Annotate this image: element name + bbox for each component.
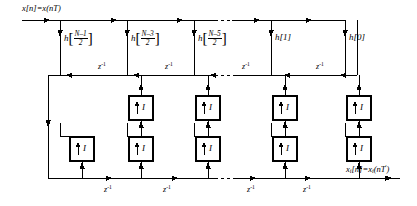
upsampler-label-u1: I bbox=[209, 103, 212, 112]
upsampler-label-l3: I bbox=[286, 144, 289, 153]
delay-label-bot-3: z-1 bbox=[303, 185, 311, 194]
upsampler-row-upper bbox=[129, 96, 371, 120]
upsampler-upper-input-arrowheads bbox=[139, 121, 362, 129]
delay-label-bot-0: z-1 bbox=[104, 185, 112, 194]
tap-1-denominator: 2 bbox=[141, 39, 155, 47]
delay-label-mid-0: z-1 bbox=[98, 62, 106, 71]
upsampler-lower-input-arrowheads bbox=[80, 162, 362, 170]
tap-label-0: h[N–12] bbox=[64, 30, 93, 47]
tap-label-2: h[N–52] bbox=[198, 30, 227, 47]
tap-label-4: h[0] bbox=[349, 33, 365, 42]
input-signal-label: x[n]=x(nT) bbox=[22, 4, 61, 13]
delay-label-mid-1: z-1 bbox=[165, 62, 173, 71]
upsampler-row-lower bbox=[70, 137, 371, 161]
upsampler-label-u3: I bbox=[360, 103, 363, 112]
figure-canvas: x[n]=x(nT) h[N–12] h[N–32] h[N–52] h[1] … bbox=[0, 0, 417, 206]
tap-0-denominator: 2 bbox=[74, 39, 88, 47]
output-signal-label: xi[n]=xi(nT') bbox=[346, 165, 389, 174]
delay-label-mid-2: z-1 bbox=[242, 62, 250, 71]
tap-label-3: h[1] bbox=[275, 33, 291, 42]
upsampler-label-u2: I bbox=[286, 103, 289, 112]
upsampler-upper-outputs bbox=[141, 75, 359, 96]
upsampler-upper-output-arrowheads bbox=[139, 83, 362, 90]
left-rail-arrowhead bbox=[46, 120, 51, 128]
delay-label-bot-1: z-1 bbox=[163, 185, 171, 194]
delay-label-mid-3: z-1 bbox=[316, 62, 324, 71]
upsampler-label-l0: I bbox=[83, 144, 86, 153]
upsampler-label-l2: I bbox=[209, 144, 212, 153]
delay-label-bot-2: z-1 bbox=[247, 185, 255, 194]
upsampler-label-l1: I bbox=[142, 144, 145, 153]
upsampler-upper-inputs bbox=[141, 120, 359, 136]
upsampler-label-u0: I bbox=[142, 103, 145, 112]
tap-label-1: h[N–32] bbox=[131, 30, 160, 47]
tap-2-denominator: 2 bbox=[208, 39, 222, 47]
upsampler-label-l4: I bbox=[360, 144, 363, 153]
upsampler-lower-inputs bbox=[82, 161, 359, 178]
